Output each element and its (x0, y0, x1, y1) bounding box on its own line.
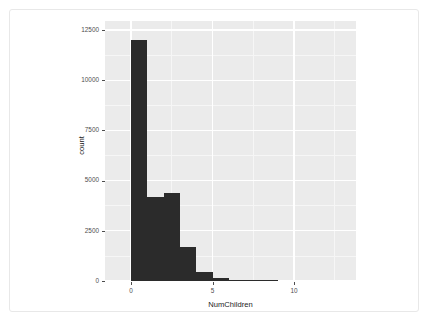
histogram-bar (245, 280, 261, 281)
gridline-minor-x (334, 21, 335, 281)
histogram-plot: 02500500075001000012500 0510 NumChildren… (10, 10, 420, 313)
x-tick-label-5: 5 (193, 288, 233, 294)
y-tick-mark (102, 231, 105, 232)
y-tick-label-2500: 2500 (85, 228, 99, 234)
histogram-bar (196, 272, 212, 281)
y-tick-mark (102, 130, 105, 131)
x-tick-mark (131, 282, 132, 285)
y-tick-label-12500: 12500 (81, 27, 99, 33)
y-tick-mark (102, 30, 105, 31)
histogram-bar (229, 280, 245, 281)
histogram-bar (213, 278, 229, 281)
x-tick-mark (213, 282, 214, 285)
x-tick-label-10: 10 (274, 288, 314, 294)
gridline-x-5 (212, 21, 213, 281)
x-tick-mark (294, 282, 295, 285)
histogram-bar (131, 40, 147, 281)
y-tick-label-0: 0 (95, 278, 99, 284)
y-tick-label-7500: 7500 (85, 127, 99, 133)
histogram-bar (261, 280, 277, 281)
x-axis-title: NumChildren (105, 300, 356, 309)
y-tick-label-5000: 5000 (85, 177, 99, 183)
y-tick-label-10000: 10000 (81, 77, 99, 83)
x-tick-label-0: 0 (111, 288, 151, 294)
y-tick-mark (102, 181, 105, 182)
plot-panel (105, 21, 356, 281)
gridline-minor-x (253, 21, 254, 281)
gridline-y-12500 (105, 29, 356, 30)
histogram-bar (147, 197, 163, 281)
histogram-bar (164, 193, 180, 281)
gridline-x-10 (293, 21, 294, 281)
y-tick-mark (102, 80, 105, 81)
y-axis-title: count (77, 136, 86, 155)
y-tick-mark (102, 281, 105, 282)
histogram-bar (180, 247, 196, 281)
figure-card: 02500500075001000012500 0510 NumChildren… (9, 9, 419, 312)
